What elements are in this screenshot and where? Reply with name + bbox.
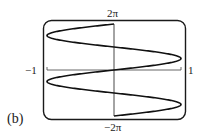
y-min-label: −2π <box>104 122 121 133</box>
x-max-label: 1 <box>188 65 194 76</box>
panel-label: (b) <box>7 112 23 126</box>
x-min-label: −1 <box>25 65 37 76</box>
y-max-label: 2π <box>107 8 118 19</box>
